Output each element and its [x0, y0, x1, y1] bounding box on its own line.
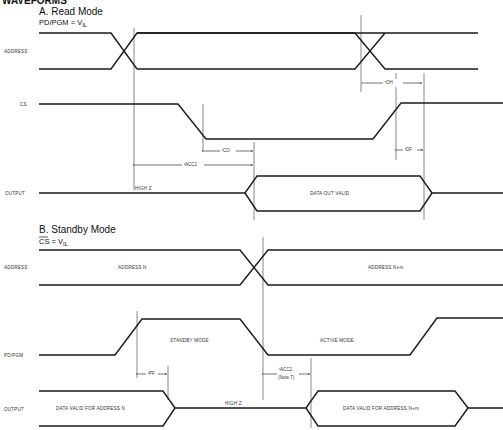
signal-pdpgm	[39, 318, 503, 355]
section-b-condition: CS = VIL	[39, 237, 69, 247]
state-data-valid-n: DATA VALID FOR ADDRESS N	[56, 406, 125, 411]
signal-output-a	[39, 176, 503, 211]
signal-address-a-upper	[39, 33, 478, 69]
section-a-title: A. Read Mode	[39, 6, 103, 17]
param-toh: tOH	[385, 80, 393, 86]
signal-label-output-a: OUTPUT	[5, 191, 25, 196]
signal-address-b	[39, 250, 503, 285]
state-active-mode: ACTIVE MODE	[320, 338, 354, 343]
section-b-title: B. Standby Mode	[39, 224, 116, 235]
state-high-z-a: HIGH Z	[135, 186, 152, 191]
state-data-valid-nm: DATA VALID FOR ADDRESS N+m	[343, 406, 419, 411]
timing-diagram: WAVEFORMS A. Read Mode PD/PGM = VIL ADDR…	[0, 0, 503, 430]
param-tco: tCO	[222, 148, 230, 154]
param-tacc2: tACC2	[279, 367, 292, 373]
state-address-nm: ADDRESS N+m	[368, 265, 404, 270]
param-tdf: tDF	[405, 147, 412, 153]
signal-label-address-b: ADDRESS	[4, 265, 28, 270]
state-data-out-valid: DATA OUT VALID	[310, 191, 350, 196]
state-standby-mode: STANDBY MODE	[170, 338, 209, 343]
signal-label-output-b: OUTPUT	[4, 407, 24, 412]
signal-address-a-lower	[137, 33, 478, 69]
signal-cs-a	[39, 103, 503, 139]
param-tpf: tPF	[148, 371, 155, 377]
signal-label-pdpgm: PD/PGM	[4, 353, 23, 358]
section-a-condition: PD/PGM = VIL	[39, 18, 88, 28]
param-tacc1: tACC1	[184, 162, 197, 168]
section-read-mode: A. Read Mode PD/PGM = VIL ADDRESS CS tOH…	[4, 6, 503, 220]
signal-label-cs: CS	[20, 102, 27, 107]
section-standby-mode: B. Standby Mode CS = VIL ADDRESS ADDRESS…	[4, 224, 503, 428]
note-7: (Note 7)	[278, 375, 295, 380]
state-high-z-b: HIGH Z	[225, 401, 242, 406]
state-address-n: ADDRESS N	[118, 265, 147, 270]
signal-label-address: ADDRESS	[4, 49, 28, 54]
